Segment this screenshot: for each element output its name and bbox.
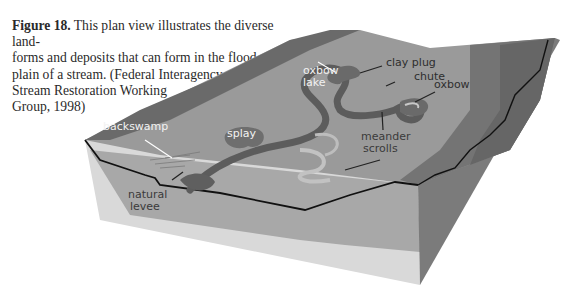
label-splay: splay — [227, 127, 257, 140]
label-natural-levee-2: levee — [130, 200, 160, 213]
label-backswamp: backswamp — [103, 120, 168, 133]
label-clay-plug: clay plug — [386, 56, 436, 69]
label-meander-scrolls-2: scrolls — [363, 142, 398, 155]
floodplain-block-diagram: oxbow lake clay plug chute oxbow backswa… — [0, 0, 569, 287]
label-oxbow: oxbow — [434, 78, 470, 91]
label-oxbow-lake-2: lake — [303, 76, 326, 89]
